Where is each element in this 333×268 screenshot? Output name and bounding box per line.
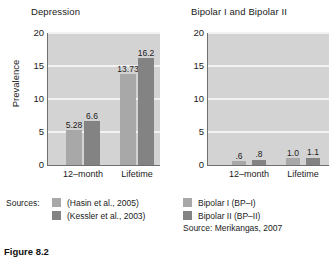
gridline: [208, 98, 329, 100]
legend-label-bipolar-2: Bipolar II (BP–II): [198, 211, 260, 221]
chart-title-bipolar: Bipolar I and Bipolar II: [191, 6, 287, 17]
bar-bipolar-1-0: 1.0: [286, 158, 300, 165]
legend-item: (Kessler et al., 2003): [6, 209, 145, 222]
figure-8-2: Depression Prevalence 051015205.286.612–…: [0, 0, 333, 268]
legend-bipolar: Bipolar I (BP–I) Bipolar II (BP–II) Sour…: [183, 196, 282, 233]
bar-bipolar-1-1: 1.1: [306, 158, 320, 165]
y-axis-tick: 20: [193, 28, 204, 38]
y-axis-tick: 10: [33, 94, 44, 104]
y-axis-tick: 15: [193, 61, 204, 71]
gridline: [208, 65, 329, 67]
legend-label-bipolar-1: Bipolar I (BP–I): [198, 198, 256, 208]
bar-value-label: 13.73: [117, 65, 138, 74]
bar-value-label: .8: [255, 150, 262, 159]
legend-depression-sources: Sources: (Hasin et al., 2005) (Kessler e…: [6, 196, 145, 222]
legend-swatch-bipolar-2: [183, 211, 192, 220]
bar-value-label: 5.28: [66, 121, 83, 130]
gridline: [208, 32, 329, 34]
figure-caption: Figure 8.2: [4, 246, 49, 257]
sources-label: Sources:: [6, 198, 52, 208]
bar-depression-1-1: 16.2: [138, 58, 154, 165]
y-axis-label-prevalence: Prevalence: [10, 42, 21, 126]
y-axis-tick: 20: [33, 28, 44, 38]
y-axis-tick: 10: [193, 94, 204, 104]
bar-value-label: 6.6: [86, 112, 98, 121]
bar-value-label: .6: [235, 152, 242, 161]
y-axis-tick: 0: [199, 160, 204, 170]
y-axis-tick: 0: [39, 160, 44, 170]
legend-item: Sources: (Hasin et al., 2005): [6, 196, 145, 209]
x-axis-tick: 12–month: [229, 169, 269, 179]
legend-label-kessler: (Kessler et al., 2003): [67, 211, 145, 221]
y-axis-tick: 5: [39, 127, 44, 137]
chart-title-depression: Depression: [31, 6, 80, 17]
x-axis-tick: Lifetime: [121, 169, 153, 179]
y-axis-tick: 5: [199, 127, 204, 137]
plot-area-depression: 051015205.286.612–month13.7316.2Lifetime: [47, 33, 160, 166]
chart-panel-bipolar: Bipolar I and Bipolar II 05101520.6.812–…: [167, 0, 333, 190]
bar-bipolar-0-0: .6: [232, 161, 246, 165]
bar-depression-0-0: 5.28: [66, 130, 82, 165]
legend-label-hasin: (Hasin et al., 2005): [67, 198, 139, 208]
x-axis-tick: 12–month: [63, 169, 103, 179]
bar-depression-0-1: 6.6: [84, 121, 100, 165]
legend-item: Bipolar I (BP–I): [183, 196, 282, 209]
gridline: [208, 131, 329, 133]
plot-area-bipolar: 05101520.6.812–month1.01.1Lifetime: [207, 33, 329, 166]
chart-panel-depression: Depression Prevalence 051015205.286.612–…: [0, 0, 166, 190]
bar-value-label: 1.0: [287, 149, 299, 158]
gridline: [48, 32, 160, 34]
bar-depression-1-0: 13.73: [120, 74, 136, 165]
bar-value-label: 16.2: [138, 49, 155, 58]
legend-item: Bipolar II (BP–II): [183, 209, 282, 222]
x-axis-tick: Lifetime: [287, 169, 319, 179]
legend-source-merikangas: Source: Merikangas, 2007: [183, 223, 282, 233]
bar-bipolar-0-1: .8: [252, 160, 266, 165]
legend-swatch-bipolar-1: [183, 198, 192, 207]
bar-value-label: 1.1: [307, 148, 319, 157]
legend-swatch-hasin: [52, 198, 61, 207]
y-axis-tick: 15: [33, 61, 44, 71]
legend-swatch-kessler: [52, 211, 61, 220]
